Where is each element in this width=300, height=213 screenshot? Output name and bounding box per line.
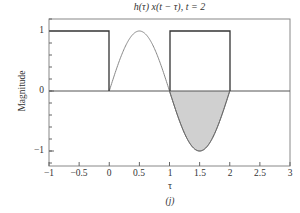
figure-caption: (j) — [160, 196, 180, 206]
x-tick-label: 0 — [94, 168, 124, 178]
chart-plot-area — [0, 0, 300, 213]
x-tick-label: −0.5 — [64, 168, 94, 178]
y-tick-label: −1 — [18, 145, 44, 155]
x-tick-label: 1.5 — [185, 168, 215, 178]
x-tick-label: 0.5 — [124, 168, 154, 178]
pulse-left — [49, 31, 109, 91]
y-tick-label: 0 — [18, 85, 44, 95]
x-tick-label: 1 — [155, 168, 185, 178]
pulse-right — [170, 31, 230, 91]
y-tick-label: 1 — [18, 25, 44, 35]
shaded-product-area — [170, 91, 230, 151]
x-tick-label: 3 — [275, 168, 300, 178]
x-axis-label: τ — [160, 180, 180, 191]
x-tick-label: 2.5 — [245, 168, 275, 178]
x-tick-label: 2 — [215, 168, 245, 178]
chart-title: h(τ) x(t − τ), t = 2 — [49, 1, 290, 12]
x-tick-label: −1 — [34, 168, 64, 178]
